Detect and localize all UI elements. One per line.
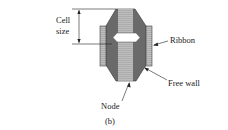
cell-hole: [113, 33, 140, 42]
cell-size-label-line2: size: [56, 27, 69, 36]
ribbon-arrowhead: [153, 43, 158, 47]
arrowhead-up: [77, 10, 80, 14]
figure-caption: (b): [105, 117, 115, 126]
node-band: [118, 9, 133, 81]
node-label: Node: [101, 102, 119, 111]
cell-size-label-line1: Cell: [56, 16, 70, 25]
node-arrowhead: [127, 82, 130, 87]
free-wall-arrowhead: [144, 68, 149, 72]
ribbon-label: Ribbon: [170, 36, 195, 45]
free-wall-leader: [145, 68, 167, 80]
free-wall-label: Free wall: [168, 79, 200, 88]
arrowhead-down: [77, 39, 80, 43]
